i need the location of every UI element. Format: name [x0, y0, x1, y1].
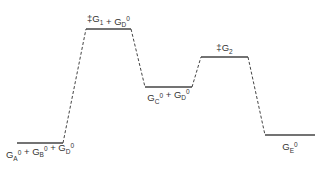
label-reactants: GA0 + GB0 + GD0	[6, 142, 74, 162]
energy-profile-diagram: GA0 + GB0 + GD0‡G1 + GD0GC0 + GD0‡G2GE0	[0, 0, 331, 171]
label-ts1: ‡G1 + GD0	[87, 13, 130, 28]
connector-ts1-to-intermediate	[131, 29, 145, 87]
connector-reactants-to-ts1	[63, 29, 86, 143]
dashed-connectors	[63, 29, 265, 143]
label-intermediate: GC0 + GD0	[147, 88, 190, 105]
energy-levels	[17, 29, 315, 143]
connector-ts2-to-products	[248, 57, 265, 135]
label-ts2: ‡G2	[216, 42, 233, 55]
connector-intermediate-to-ts2	[192, 57, 201, 87]
label-products: GE0	[282, 141, 298, 154]
